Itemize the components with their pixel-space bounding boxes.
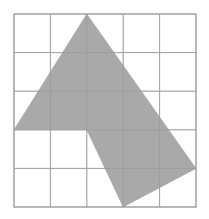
grid-figure-svg <box>0 0 209 219</box>
figure-container: Shaded polygon on square grid A gray sha… <box>0 0 209 219</box>
